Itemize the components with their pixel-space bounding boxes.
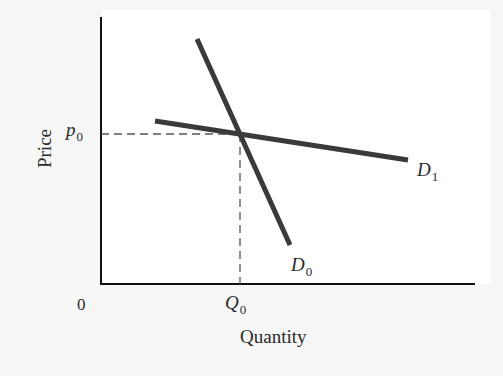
d0-main: D	[291, 254, 305, 275]
d1-sub: 1	[432, 169, 439, 184]
p0-main: p	[66, 119, 76, 140]
q0-sub: 0	[240, 302, 247, 317]
y-axis-label: Price	[35, 129, 54, 168]
x-axis-label: Quantity	[240, 327, 307, 346]
p0-tick-label: p0	[66, 120, 83, 139]
d1-main: D	[417, 159, 431, 180]
q0-tick-label: Q0	[225, 293, 246, 312]
q0-main: Q	[225, 292, 239, 313]
chart-canvas	[0, 0, 503, 376]
d0-sub: 0	[306, 264, 313, 279]
demand-curve-d1	[155, 121, 408, 160]
d0-curve-label: D0	[291, 255, 312, 274]
origin-label: 0	[77, 296, 86, 313]
d1-curve-label: D1	[417, 160, 438, 179]
p0-sub: 0	[77, 129, 84, 144]
